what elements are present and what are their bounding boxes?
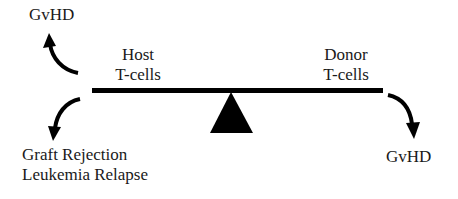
arrow-up-left-icon — [43, 33, 78, 73]
gvhd-left-label: GvHD — [29, 5, 74, 25]
donor-label-line1: Donor — [312, 45, 380, 65]
host-label-line1: Host — [108, 45, 168, 65]
fulcrum-triangle — [210, 92, 253, 133]
arrow-down-right-icon — [388, 95, 420, 139]
arrow-down-left-icon — [48, 99, 80, 141]
host-label-line2: T-cells — [108, 65, 168, 85]
left-down-outcomes: Graft Rejection Leukemia Relapse — [22, 145, 148, 185]
donor-label-line2: T-cells — [312, 65, 380, 85]
host-tcells-label: Host T-cells — [108, 45, 168, 85]
donor-tcells-label: Donor T-cells — [312, 45, 380, 85]
balance-beam — [92, 88, 383, 93]
leukemia-relapse-label: Leukemia Relapse — [22, 165, 148, 185]
graft-rejection-label: Graft Rejection — [22, 145, 148, 165]
gvhd-right-label: GvHD — [386, 147, 431, 167]
